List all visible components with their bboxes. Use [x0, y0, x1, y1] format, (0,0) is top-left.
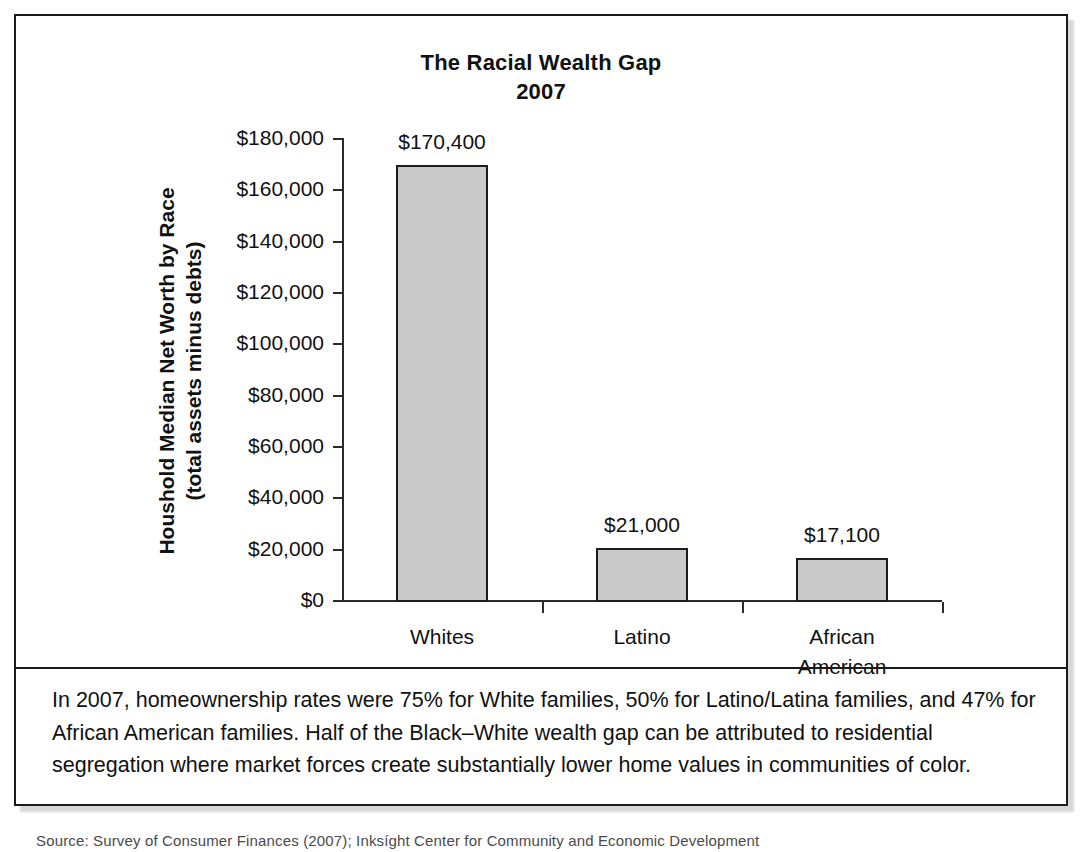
y-tick-label: $120,000	[144, 280, 324, 304]
y-axis-line	[342, 138, 344, 602]
chart-title-line2: 2007	[16, 77, 1066, 106]
y-tick	[333, 395, 344, 397]
y-tick	[333, 600, 344, 602]
y-tick-label: $40,000	[144, 485, 324, 509]
y-tick	[333, 241, 344, 243]
source-note: Source: Survey of Consumer Finances (200…	[36, 833, 1066, 852]
y-tick	[333, 497, 344, 499]
chart-title-line1: The Racial Wealth Gap	[421, 50, 662, 75]
x-category-label: Latino	[542, 622, 742, 652]
y-tick	[333, 292, 344, 294]
x-tick	[742, 602, 744, 613]
bar	[396, 165, 488, 602]
x-category-label-line: African	[742, 622, 942, 652]
chart-title: The Racial Wealth Gap 2007	[16, 48, 1066, 106]
plot-region: $0$20,000$40,000$60,000$80,000$100,000$1…	[342, 126, 942, 604]
chart-area: The Racial Wealth Gap 2007 Houshold Medi…	[16, 16, 1066, 656]
y-tick	[333, 343, 344, 345]
y-tick	[333, 189, 344, 191]
bar-value-label: $170,400	[352, 130, 532, 154]
bar	[596, 548, 688, 602]
bar	[796, 558, 888, 602]
source-note-text: Source: Survey of Consumer Finances (200…	[36, 833, 1066, 849]
y-tick-label: $100,000	[144, 331, 324, 355]
caption-divider	[16, 667, 1066, 669]
x-category-label: Whites	[342, 622, 542, 652]
y-tick-label: $80,000	[144, 383, 324, 407]
y-tick-label: $160,000	[144, 177, 324, 201]
y-tick-label: $20,000	[144, 537, 324, 561]
x-category-label-line: Latino	[542, 622, 742, 652]
figure-caption: In 2007, homeownership rates were 75% fo…	[52, 684, 1040, 782]
x-category-label-line: Whites	[342, 622, 542, 652]
x-tick	[942, 602, 944, 613]
y-tick	[333, 446, 344, 448]
y-tick	[333, 549, 344, 551]
y-tick-label: $180,000	[144, 126, 324, 150]
y-tick-label: $140,000	[144, 229, 324, 253]
figure-frame: The Racial Wealth Gap 2007 Houshold Medi…	[14, 14, 1068, 806]
y-axis-title: Houshold Median Net Worth by Race (total…	[144, 146, 216, 596]
bar-value-label: $17,100	[752, 523, 932, 547]
y-tick-label: $0	[144, 588, 324, 612]
bar-value-label: $21,000	[552, 513, 732, 537]
y-tick	[333, 138, 344, 140]
y-tick-label: $60,000	[144, 434, 324, 458]
x-tick	[542, 602, 544, 613]
x-category-label: AfricanAmerican	[742, 622, 942, 682]
